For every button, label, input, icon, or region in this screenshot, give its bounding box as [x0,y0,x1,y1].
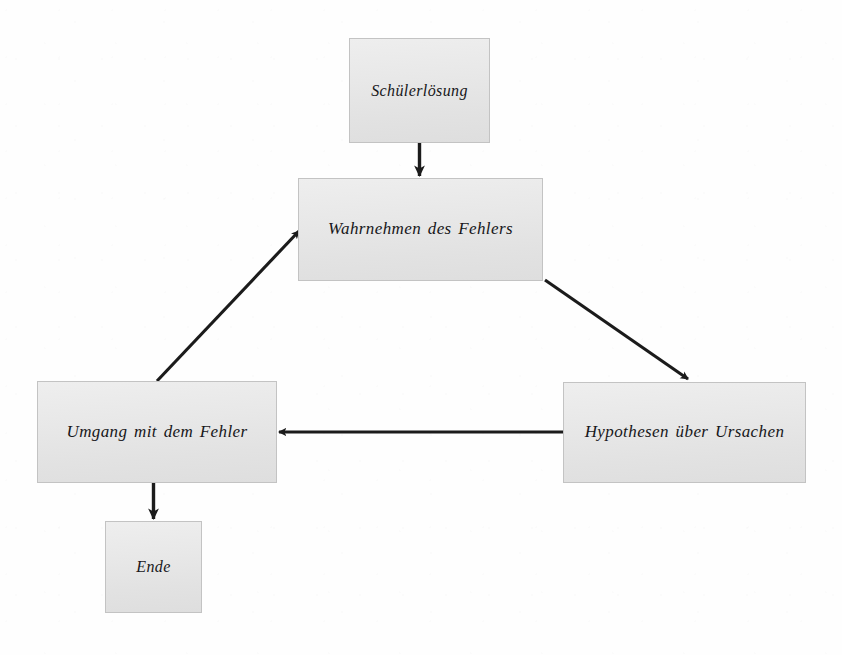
flowchart-diagram: Schülerlösung Wahrnehmen des Fehlers Hyp… [0,0,842,655]
node-wahrnehmen-des-fehlers-label: Wahrnehmen des Fehlers [328,220,513,239]
node-schuelerloesung: Schülerlösung [349,38,490,143]
node-umgang-mit-dem-fehler-label: Umgang mit dem Fehler [66,423,247,442]
node-ende: Ende [105,521,202,613]
edge-umgang-wahrnehmen [157,231,299,381]
node-schuelerloesung-label: Schülerlösung [371,82,468,100]
node-ende-label: Ende [136,558,170,576]
edge-wahrnehmen-hypothesen [545,280,688,379]
node-wahrnehmen-des-fehlers: Wahrnehmen des Fehlers [298,178,543,281]
node-umgang-mit-dem-fehler: Umgang mit dem Fehler [37,381,277,483]
node-hypothesen-ueber-ursachen: Hypothesen über Ursachen [563,382,806,483]
node-hypothesen-ueber-ursachen-label: Hypothesen über Ursachen [585,423,785,442]
